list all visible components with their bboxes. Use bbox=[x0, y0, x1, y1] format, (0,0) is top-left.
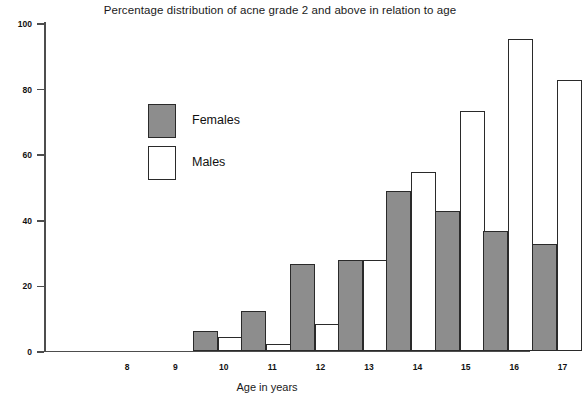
x-axis-tick-label: 12 bbox=[316, 362, 325, 372]
y-axis-tick bbox=[37, 89, 44, 91]
x-axis-tick-label: 16 bbox=[509, 362, 518, 372]
y-axis-tick-label: 40 bbox=[23, 216, 32, 226]
bar-group bbox=[338, 23, 388, 351]
bar-group bbox=[193, 23, 243, 351]
x-axis-tick-label: 8 bbox=[125, 362, 130, 372]
legend-label-females: Females bbox=[192, 113, 240, 127]
bar-males-age-13 bbox=[363, 260, 388, 350]
y-axis-tick-label: 100 bbox=[18, 19, 32, 29]
x-axis-title: Age in years bbox=[0, 381, 534, 393]
bar-group bbox=[96, 23, 146, 351]
y-axis-tick-label: 0 bbox=[27, 347, 32, 357]
x-axis-tick-label: 13 bbox=[364, 362, 373, 372]
bar-series-container bbox=[44, 23, 530, 351]
y-axis-tick bbox=[37, 23, 44, 25]
bar-males-age-14 bbox=[411, 172, 436, 351]
x-axis-tick-label: 10 bbox=[219, 362, 228, 372]
chart-title: Percentage distribution of acne grade 2 … bbox=[60, 4, 500, 16]
bar-group bbox=[241, 23, 291, 351]
bar-group bbox=[483, 23, 533, 351]
bar-females-age-14 bbox=[386, 191, 411, 350]
bar-males-age-10 bbox=[218, 337, 243, 350]
y-axis-tick-label: 60 bbox=[23, 150, 32, 160]
y-axis-tick bbox=[37, 154, 44, 156]
y-axis-tick bbox=[37, 351, 44, 353]
legend-swatch-males-icon bbox=[148, 146, 176, 180]
y-axis-tick-label: 80 bbox=[23, 85, 32, 95]
bar-females-age-17 bbox=[532, 244, 557, 351]
x-axis-tick-label: 14 bbox=[413, 362, 422, 372]
bar-group bbox=[290, 23, 340, 351]
x-axis-tick-label: 17 bbox=[558, 362, 567, 372]
y-axis-tick-label: 20 bbox=[23, 281, 32, 291]
bar-males-age-15 bbox=[460, 111, 485, 350]
bar-females-age-13 bbox=[338, 260, 363, 350]
x-axis-tick-label: 15 bbox=[461, 362, 470, 372]
bar-females-age-11 bbox=[241, 311, 266, 350]
bar-males-age-16 bbox=[508, 39, 533, 351]
y-axis-tick bbox=[37, 286, 44, 288]
bar-group bbox=[144, 23, 194, 351]
legend-label-males: Males bbox=[192, 155, 225, 169]
y-axis-tick bbox=[37, 220, 44, 222]
bar-females-age-12 bbox=[290, 264, 315, 351]
bar-group bbox=[386, 23, 436, 351]
x-axis-tick-label: 11 bbox=[268, 362, 277, 372]
plot-area: 020406080100 bbox=[44, 22, 530, 352]
bar-group bbox=[532, 23, 582, 351]
bar-females-age-10 bbox=[193, 331, 218, 351]
bar-group bbox=[435, 23, 485, 351]
bar-females-age-16 bbox=[483, 231, 508, 351]
bar-males-age-12 bbox=[315, 324, 340, 350]
legend-swatch-females-icon bbox=[148, 104, 176, 138]
bar-males-age-11 bbox=[266, 344, 291, 351]
bar-males-age-17 bbox=[557, 80, 582, 351]
x-axis-tick-label: 9 bbox=[173, 362, 178, 372]
bar-females-age-15 bbox=[435, 211, 460, 350]
x-axis-line bbox=[44, 351, 530, 353]
